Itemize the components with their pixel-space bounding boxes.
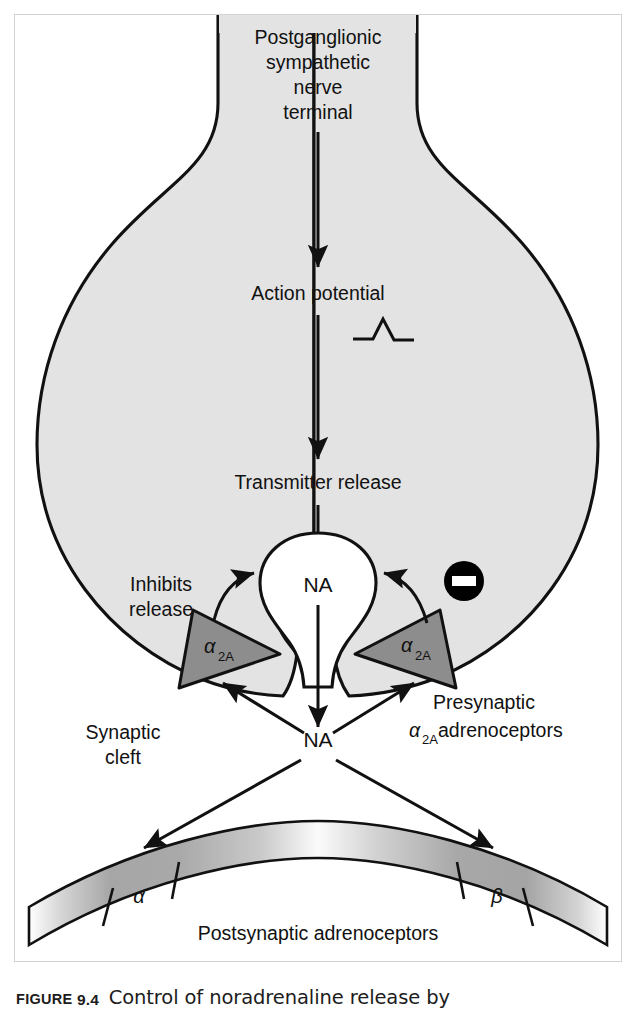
figure-caption: FIGURE 9.4 Control of noradrenaline rele… bbox=[16, 986, 622, 1009]
receptor-alpha2a-left-symbol: α bbox=[204, 635, 216, 657]
terminal-label-line2: sympathetic bbox=[266, 51, 370, 73]
receptor-alpha2a-right-subscript: 2A bbox=[415, 648, 431, 663]
receptor-alpha2a-left-subscript: 2A bbox=[218, 649, 234, 664]
postsynaptic-adrenoceptors-label: Postsynaptic adrenoceptors bbox=[198, 922, 439, 944]
caption-figure-number: 9.4 bbox=[77, 991, 99, 1008]
terminal-label-line3: nerve bbox=[294, 76, 343, 98]
caption-text: Control of noradrenaline release by bbox=[109, 986, 450, 1009]
inhibition-badge bbox=[444, 561, 484, 601]
presynaptic-label-line2: α 2A adrenoceptors bbox=[409, 719, 563, 747]
postsynaptic-alpha-symbol: α bbox=[133, 885, 145, 907]
caption-figure-word: FIGURE bbox=[16, 991, 73, 1007]
action-potential-label: Action potential bbox=[251, 282, 384, 304]
terminal-label-line1: Postganglionic bbox=[255, 26, 382, 48]
figure-page: Postganglionic sympathetic nerve termina… bbox=[0, 0, 637, 1034]
figure-frame: Postganglionic sympathetic nerve termina… bbox=[14, 14, 622, 962]
neuron-synapse-diagram: Postganglionic sympathetic nerve termina… bbox=[15, 15, 621, 961]
presynaptic-label-line1: Presynaptic bbox=[433, 691, 535, 713]
presynaptic-label-alpha: α bbox=[409, 719, 421, 741]
transmitter-release-label: Transmitter release bbox=[234, 471, 401, 493]
terminal-label-line4: terminal bbox=[283, 101, 352, 123]
presynaptic-label-rest: adrenoceptors bbox=[438, 719, 563, 741]
postsynaptic-beta-symbol: β bbox=[490, 885, 502, 907]
inhibits-release-label-line2: release bbox=[129, 598, 193, 620]
receptor-alpha2a-right-symbol: α bbox=[401, 634, 413, 656]
presynaptic-label-subscript: 2A bbox=[422, 732, 438, 747]
cleft-na-label: NA bbox=[303, 728, 332, 751]
inhibition-badge-minus bbox=[452, 576, 476, 586]
synaptic-cleft-label-line1: Synaptic bbox=[86, 721, 161, 743]
inhibits-release-label-line1: Inhibits bbox=[130, 573, 192, 595]
vesicle-na-label: NA bbox=[303, 573, 332, 596]
synaptic-cleft-label-line2: cleft bbox=[105, 746, 141, 768]
